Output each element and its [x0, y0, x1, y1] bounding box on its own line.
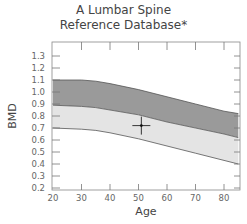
- x-tick-label: 20: [48, 193, 59, 203]
- y-tick-label: 0.2: [31, 183, 45, 193]
- y-axis-label: BMD: [6, 103, 19, 129]
- y-tick-label: 1.0: [31, 87, 45, 97]
- y-tick-label: 0.9: [31, 99, 45, 109]
- y-tick-label: 0.5: [31, 147, 45, 157]
- x-tick-label: 80: [219, 193, 230, 203]
- x-tick-label: 60: [162, 193, 173, 203]
- patient-marker: [140, 124, 143, 127]
- y-tick-label: 1.1: [31, 75, 45, 85]
- y-tick-label: 0.4: [31, 159, 45, 169]
- y-tick-label: 0.3: [31, 171, 45, 181]
- bmd-chart: 0.20.30.40.50.60.70.80.91.01.11.21.32030…: [0, 0, 247, 224]
- x-axis-label: Age: [135, 205, 157, 218]
- y-tick-label: 0.8: [31, 111, 45, 121]
- x-tick-label: 30: [76, 193, 87, 203]
- y-tick-label: 0.7: [31, 123, 45, 133]
- y-tick-label: 1.3: [31, 51, 45, 61]
- x-tick-label: 40: [105, 193, 116, 203]
- y-tick-label: 0.6: [31, 135, 45, 145]
- x-tick-label: 70: [190, 193, 201, 203]
- y-tick-label: 1.2: [31, 63, 45, 73]
- x-tick-label: 50: [133, 193, 144, 203]
